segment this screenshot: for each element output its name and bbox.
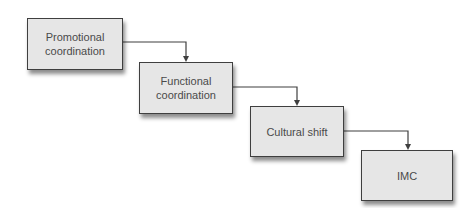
node-cultural-shift: Cultural shift: [250, 106, 344, 157]
node-label: Functional coordination: [156, 74, 216, 102]
node-label: IMC: [397, 169, 417, 183]
node-label: Promotional coordination: [45, 30, 105, 58]
edge-n3-n4: [343, 131, 411, 150]
edge-n2-n3: [232, 87, 300, 106]
node-functional-coordination: Functional coordination: [139, 62, 233, 114]
node-promotional-coordination: Promotional coordination: [27, 18, 123, 70]
edge-n1-n2: [122, 42, 189, 62]
node-label: Cultural shift: [266, 125, 327, 139]
node-imc: IMC: [361, 150, 453, 201]
